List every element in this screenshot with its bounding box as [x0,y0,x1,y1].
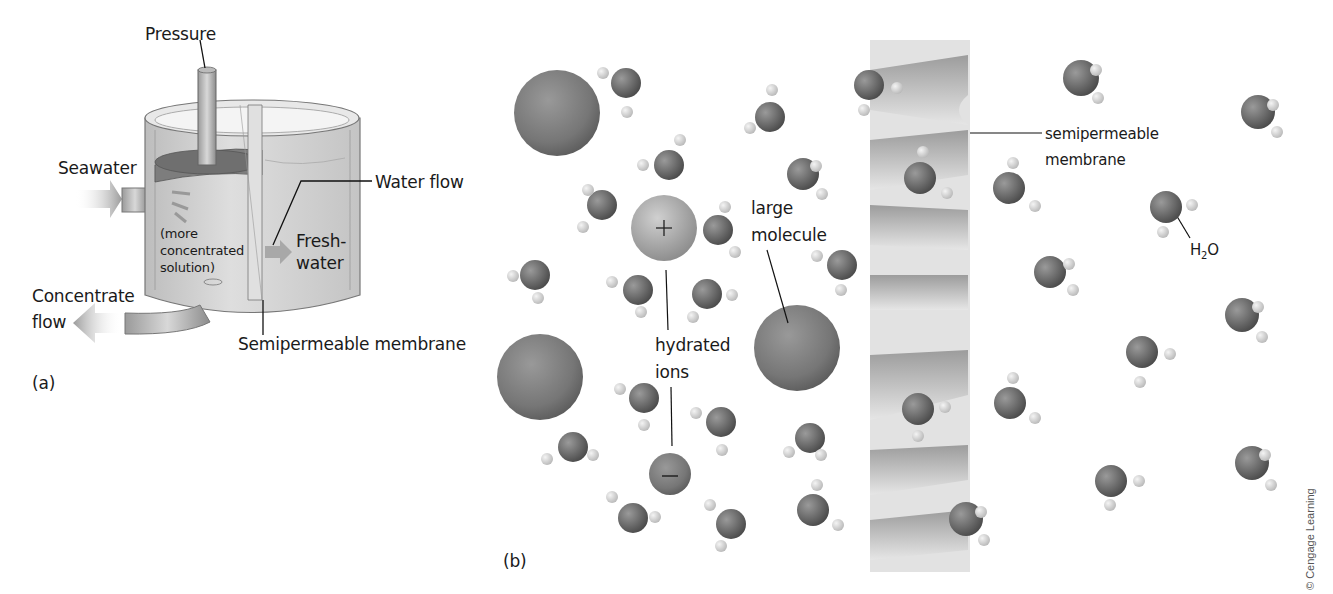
copyright-credit: © Cengage Learning [1304,488,1316,590]
panel-b-label: (b) [503,551,526,571]
figure-artwork [0,0,1333,594]
anion-sphere [649,453,691,495]
water-flow-label: Water flow [375,172,464,192]
panel-a-label: (a) [32,373,55,393]
freshwater-label: Fresh- water [296,230,346,274]
semipermeable-membrane-label-b: semipermeable membrane [1045,121,1159,173]
seawater-label: Seawater [58,158,137,178]
hydrated-ions-label: hydrated ions [655,332,730,386]
large-molecule-label: large molecule [751,195,827,249]
semipermeable-membrane-illustration [870,40,970,572]
more-concentrated-label: (more concentrated solution) [160,225,244,276]
reverse-osmosis-figure: Pressure Seawater Water flow (more conce… [0,0,1333,594]
large-molecule-sphere [497,334,583,420]
large-molecule-sphere [514,70,600,156]
pressure-label: Pressure [145,24,216,44]
molecular-view [497,40,1283,572]
semipermeable-membrane-label-a: Semipermeable membrane [238,334,466,354]
concentrate-flow-label: Concentrate flow [32,283,135,335]
h2o-label: H2O [1190,241,1219,261]
large-molecule-sphere [754,305,840,391]
